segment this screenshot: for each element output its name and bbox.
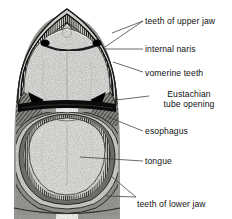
frog-mouth-anatomy-figure: teeth of upper jaw internal naris vomeri… [0, 0, 232, 219]
label-internal-naris: internal naris [145, 45, 196, 55]
label-eustachian-line-2: tube opening [152, 100, 226, 110]
label-esophagus: esophagus [145, 127, 188, 137]
anatomical-illustration [0, 0, 232, 219]
label-teeth-of-lower-jaw: teeth of lower jaw [137, 200, 206, 210]
label-eustachian-tube-opening: Eustachian tube opening [152, 90, 226, 109]
label-tongue: tongue [145, 157, 172, 167]
leader-vomerine [113, 62, 143, 72]
internal-naris-right-icon [92, 39, 101, 46]
label-vomerine-teeth: vomerine teeth [145, 69, 203, 79]
internal-naris-left-icon [40, 39, 49, 46]
leader-eustachian [116, 96, 149, 100]
leader-teeth-upper-b [105, 21, 143, 47]
label-teeth-of-upper-jaw: teeth of upper jaw [145, 17, 215, 27]
